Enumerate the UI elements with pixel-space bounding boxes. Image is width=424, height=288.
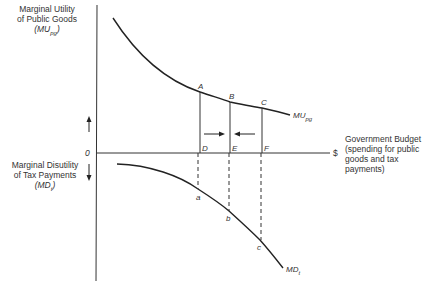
md-curve-label: MDt [286, 265, 300, 276]
x-label-line2: (spending for public [345, 144, 424, 154]
arrow-left-icon [234, 132, 255, 137]
arrow-right-icon [204, 132, 225, 137]
x-axis-label: Government Budget (spending for public g… [345, 134, 424, 174]
x-label-line1: Government Budget [345, 134, 424, 144]
point-f: F [264, 144, 269, 153]
point-c-lower: c [257, 243, 261, 252]
y-label-mu-line1: Marginal Utility [2, 4, 92, 14]
y-axis-label-md: Marginal Disutility of Tax Payments (MDt… [0, 160, 90, 194]
vertical-axis [96, 5, 97, 281]
y-label-md-line1: Marginal Disutility [0, 160, 90, 170]
point-d: D [202, 144, 208, 153]
point-b-upper: B [229, 92, 234, 101]
y-label-md-symbol: (MDt) [0, 180, 90, 194]
point-e: E [232, 144, 237, 153]
x-label-line3: goods and tax [345, 154, 424, 164]
point-b-lower: b [226, 214, 230, 223]
point-a-upper: A [198, 82, 203, 91]
mu-curve-label: MUpg [293, 111, 312, 122]
x-unit-label: $ [333, 148, 338, 158]
y-label-mu-line2: of Public Goods [2, 14, 92, 24]
y-label-md-line2: of Tax Payments [0, 170, 90, 180]
point-c-upper: C [261, 98, 267, 107]
y-label-mu-symbol: (MUpg) [2, 24, 92, 38]
origin-label: 0 [85, 148, 90, 158]
point-a-lower: a [196, 193, 200, 202]
md-t-curve [117, 164, 283, 268]
y-axis-label-mu: Marginal Utility of Public Goods (MUpg) [2, 4, 92, 38]
arrow-up-icon [87, 116, 92, 132]
x-label-line4: payments) [345, 164, 424, 174]
